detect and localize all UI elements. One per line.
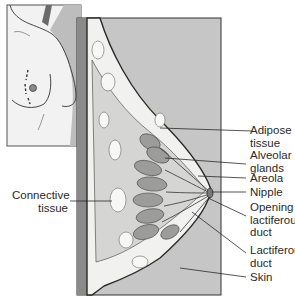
label-line: Areola: [250, 172, 283, 185]
nipple-shape: [207, 188, 213, 198]
label-alveolar-glands: Alveolar glands: [250, 149, 292, 174]
label-line: tissue: [12, 202, 68, 215]
label-line: duct: [250, 226, 295, 239]
label-skin: Skin: [250, 271, 272, 284]
label-nipple: Nipple: [250, 186, 283, 199]
label-line: Alveolar: [250, 149, 292, 162]
label-opening-of-lactiferous-duct: Opening of lactiferous duct: [250, 201, 295, 239]
inset-torso-view: [7, 5, 81, 146]
label-adipose-tissue: Adipose tissue: [250, 124, 292, 149]
label-line: Opening of: [250, 201, 295, 214]
label-line: Nipple: [250, 186, 283, 199]
cross-section-panel: [77, 18, 221, 295]
label-line: Connective: [12, 189, 68, 202]
label-line: Adipose: [250, 124, 292, 137]
label-lactiferous-duct: Lactiferous duct: [250, 244, 295, 269]
label-line: tissue: [250, 137, 292, 150]
label-line: Skin: [250, 271, 272, 284]
label-line: duct: [250, 257, 295, 270]
label-areola: Areola: [250, 172, 283, 185]
label-line: lactiferous: [250, 214, 295, 227]
label-connective-tissue: Connective tissue: [12, 189, 68, 214]
label-line: Lactiferous: [250, 244, 295, 257]
